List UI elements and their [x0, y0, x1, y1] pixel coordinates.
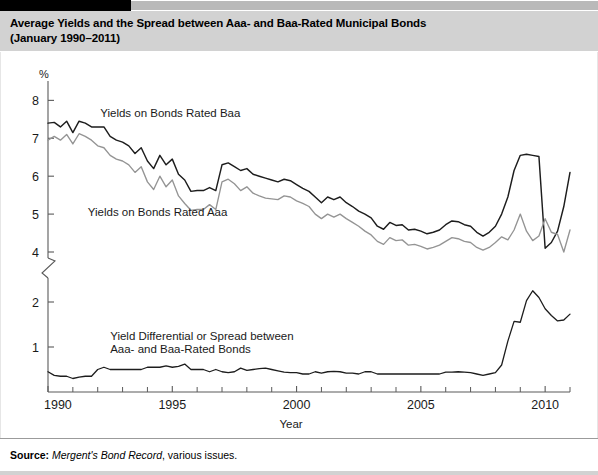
- y-tick-label-6: 6: [32, 170, 39, 184]
- chart-plot-area: 4567812%19901995200020052010YearYields o…: [0, 52, 598, 434]
- y-axis-unit-label: %: [39, 68, 49, 80]
- x-tick-label-2005: 2005: [407, 398, 435, 412]
- y-tick-label-1: 1: [32, 341, 39, 355]
- figure-panel: Average Yields and the Spread between Aa…: [0, 0, 598, 475]
- figure-title-line-1: Average Yields and the Spread between Aa…: [10, 17, 426, 29]
- source-remainder: , various issues.: [162, 449, 237, 461]
- topbar-gray-segment: [131, 1, 598, 10]
- y-tick-label-5: 5: [32, 208, 39, 222]
- source-publication: Mergent's Bond Record: [52, 449, 162, 461]
- figure-title-band: Average Yields and the Spread between Aa…: [0, 11, 598, 52]
- decorative-top-bars: [0, 0, 598, 11]
- y-tick-label-4: 4: [32, 246, 39, 260]
- y-tick-label-7: 7: [32, 132, 39, 146]
- series-line-aaa: [48, 134, 570, 252]
- x-tick-label-2000: 2000: [283, 398, 311, 412]
- figure-title-line-2: (January 1990–2011): [10, 32, 120, 44]
- series-line-baa: [48, 121, 570, 248]
- x-tick-label-1990: 1990: [44, 398, 72, 412]
- annotation-spread-line-2: Aaa- and Baa-Rated Bonds: [110, 343, 251, 355]
- y-axis-scale-break: [42, 258, 55, 278]
- line-chart: 4567812%19901995200020052010YearYields o…: [0, 52, 598, 434]
- x-axis-title: Year: [279, 418, 302, 430]
- source-note: Source: Mergent's Bond Record, various i…: [10, 449, 237, 461]
- y-tick-label-8: 8: [32, 94, 39, 108]
- x-tick-label-2010: 2010: [531, 398, 559, 412]
- y-tick-label-2: 2: [32, 296, 39, 310]
- annotation-spread-line-1: Yield Differential or Spread between: [110, 330, 293, 342]
- source-label: Source:: [10, 449, 49, 461]
- annotation-aaa: Yields on Bonds Rated Aaa: [88, 206, 228, 218]
- annotation-baa: Yields on Bonds Rated Baa: [100, 107, 241, 119]
- topbar-black-segment: [0, 0, 131, 11]
- x-tick-label-1995: 1995: [158, 398, 186, 412]
